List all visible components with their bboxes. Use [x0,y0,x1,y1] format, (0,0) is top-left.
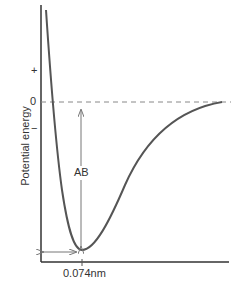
plus-label: + [31,64,37,76]
potential-curve [46,10,222,250]
chart-canvas [0,0,233,282]
x-tick-label: 0.074nm [63,267,106,279]
minus-label: − [31,122,37,134]
ab-label: AB [74,166,89,178]
y-axis-label: Potential energy [19,91,31,201]
